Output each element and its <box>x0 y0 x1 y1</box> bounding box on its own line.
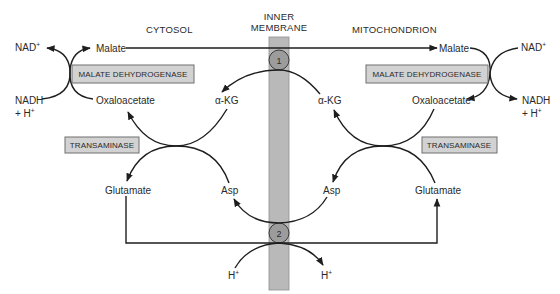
mito-malate-dehydrogenase-box: MALATE DEHYDROGENASE <box>366 65 488 83</box>
mito-glutamate: Glutamate <box>415 185 462 196</box>
cytosol-nadh-to-nad-arc <box>42 48 70 99</box>
malate-aspartate-shuttle-diagram: CYTOSOL INNER MEMBRANE MITOCHONDRION 1 2… <box>0 0 560 294</box>
cytosol-transaminase-label: TRANSAMINASE <box>70 141 134 150</box>
mito-h-plus: H+ <box>321 269 332 281</box>
inner-membrane-header-line1: INNER <box>264 11 295 22</box>
cytosol-asp: Asp <box>221 185 239 196</box>
mito-oxaloacetate: Oxaloacetate <box>412 95 471 106</box>
transporter-1-label: 1 <box>276 56 281 66</box>
transporter-2-label: 2 <box>276 229 281 239</box>
mito-nad-to-nadh-arc <box>490 48 518 99</box>
cytosol-transaminase-box: TRANSAMINASE <box>65 137 139 153</box>
cytosol-malate-dehydrogenase-box: MALATE DEHYDROGENASE <box>72 65 194 83</box>
cytosol-malate: Malate <box>96 43 126 54</box>
cytosol-alpha-kg: α-KG <box>215 95 239 106</box>
cytosol-header: CYTOSOL <box>146 24 193 35</box>
mito-nad: NAD+ <box>521 41 546 53</box>
mito-nadh: NADH <box>522 95 550 106</box>
cytosol-glutamate: Glutamate <box>105 185 152 196</box>
cytosol-h-plus: H+ <box>228 269 239 281</box>
mito-asp: Asp <box>323 185 341 196</box>
cytosol-asp-to-glutamate-arc <box>127 146 229 183</box>
mito-glutamate-to-akg-arc <box>334 110 435 183</box>
inner-membrane-header-line2: MEMBRANE <box>251 22 308 33</box>
cytosol-akg-to-oaa-arc <box>128 109 227 146</box>
cytosol-nadh: NADH <box>15 95 43 106</box>
cytosol-oxaloacetate: Oxaloacetate <box>96 95 155 106</box>
inner-membrane <box>269 37 289 290</box>
mito-transaminase-label: TRANSAMINASE <box>427 141 491 150</box>
mitochondrion-header: MITOCHONDRION <box>352 24 437 35</box>
cytosol-malate-dehydrogenase-label: MALATE DEHYDROGENASE <box>79 70 188 79</box>
mito-h-plus-nadh: + H+ <box>522 107 542 119</box>
mito-transaminase-box: TRANSAMINASE <box>422 137 497 153</box>
mito-malate: Malate <box>439 43 469 54</box>
mito-malate-dehydrogenase-label: MALATE DEHYDROGENASE <box>373 70 482 79</box>
cytosol-nad: NAD+ <box>15 41 40 53</box>
cytosol-h-plus-nadh: + H+ <box>15 107 35 119</box>
mito-alpha-kg: α-KG <box>318 95 342 106</box>
